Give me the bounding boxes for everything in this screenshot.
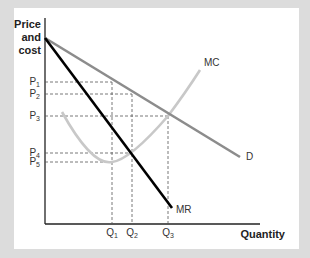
y-axis-label-line3: cost: [18, 44, 41, 56]
q1-label: Q1: [106, 227, 118, 239]
y-axis-label-line2: and: [21, 31, 41, 43]
mr-label: MR: [176, 204, 192, 215]
y-axis-label-line1: Price: [14, 18, 41, 30]
q2-label: Q2: [126, 227, 138, 239]
monopoly-chart: Price and cost MC D MR P1 P2: [0, 0, 310, 258]
demand-curve: [45, 38, 240, 157]
p3-label: P3: [29, 110, 40, 122]
d-label: D: [246, 151, 253, 162]
mr-curve: [45, 38, 172, 208]
mc-label: MC: [204, 57, 220, 68]
x-axis-label: Quantity: [240, 228, 285, 240]
q3-label: Q3: [162, 227, 174, 239]
q-tick-labels: Q1 Q2 Q3: [106, 227, 174, 239]
p1-label: P1: [29, 76, 40, 88]
chart-frame: Price and cost MC D MR P1 P2: [0, 0, 310, 258]
p-tick-labels: P1 P2 P3 P4 P5: [29, 76, 40, 168]
p2-label: P2: [29, 88, 40, 100]
